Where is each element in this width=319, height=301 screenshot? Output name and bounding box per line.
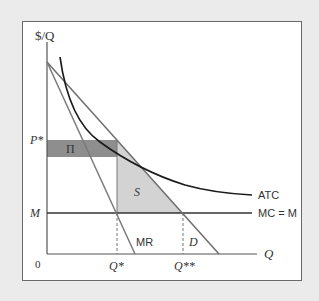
profit-region — [47, 140, 117, 157]
demand-label: D — [188, 235, 198, 249]
monopoly-diagram: $/Q Q 0 P* M Q* Q** Π S ATC MC = M MR D — [0, 0, 319, 301]
q-star-star-label: Q** — [174, 259, 195, 273]
q-star-label: Q* — [109, 259, 124, 273]
atc-label: ATC — [258, 189, 279, 201]
demand-curve — [47, 62, 219, 254]
origin-label: 0 — [35, 258, 41, 270]
profit-label: Π — [66, 142, 75, 156]
m-label: M — [29, 206, 41, 220]
surplus-label: S — [134, 185, 140, 199]
mr-label: MR — [136, 236, 153, 248]
mc-label: MC = M — [258, 207, 297, 219]
y-axis-label: $/Q — [35, 28, 55, 43]
atc-curve — [60, 57, 252, 195]
x-axis-label: Q — [264, 246, 274, 261]
p-star-label: P* — [29, 133, 43, 147]
